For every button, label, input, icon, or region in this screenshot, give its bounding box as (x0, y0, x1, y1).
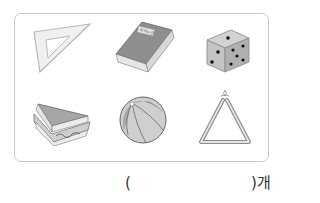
dice-icon (203, 26, 253, 74)
answer-blank[interactable] (135, 174, 245, 192)
answer-unit: )개 (251, 174, 271, 192)
triangle-instrument-icon (197, 88, 253, 150)
sandwich-icon (30, 100, 94, 146)
dictionary-book-icon: 국어사전 (114, 20, 178, 76)
answer-open-paren: ( (125, 174, 131, 192)
beach-ball-icon (118, 95, 168, 145)
triangle-ruler-icon (32, 22, 92, 74)
